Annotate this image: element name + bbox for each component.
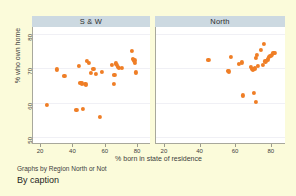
data-point <box>76 63 80 67</box>
data-point <box>259 48 263 52</box>
data-point <box>262 41 266 45</box>
x-tick-label-60: 60 <box>232 148 239 154</box>
graphs-by-note: Graphs by Region North or Not <box>17 165 107 172</box>
plot-area-north <box>155 27 285 144</box>
x-axis-title: % born in state of residence <box>32 155 285 162</box>
data-point <box>112 82 116 86</box>
gridline-y-60 <box>155 103 285 104</box>
x-axis-line-left <box>32 143 150 144</box>
data-point <box>134 70 138 74</box>
data-point <box>81 106 85 110</box>
data-point <box>93 72 97 76</box>
panel-header-s-and-w: S & W <box>32 16 150 27</box>
data-point <box>227 69 231 73</box>
x-tick-label-40: 40 <box>69 148 76 154</box>
x-tick-label-40: 40 <box>196 148 203 154</box>
x-tick-label-80: 80 <box>134 148 141 154</box>
data-point <box>62 74 66 78</box>
data-point <box>206 58 210 62</box>
data-point <box>84 83 88 87</box>
gridline-y-80 <box>32 34 150 35</box>
data-point <box>89 71 93 75</box>
x-tick-label-20: 20 <box>161 148 168 154</box>
data-point <box>240 60 244 64</box>
gridline-y-60 <box>32 103 150 104</box>
x-tick-label-60: 60 <box>101 148 108 154</box>
x-axis-line-right <box>155 143 285 144</box>
data-point <box>130 49 134 53</box>
y-axis-ticks: 50607080 <box>14 16 32 144</box>
gridline-y-50 <box>155 137 285 138</box>
data-point <box>261 63 265 67</box>
data-point <box>55 67 59 71</box>
data-point <box>273 51 277 55</box>
x-tick-mark-80 <box>271 144 272 147</box>
data-point <box>254 56 258 60</box>
plot-area-s-and-w <box>32 27 150 144</box>
y-axis-line-left <box>32 27 33 144</box>
data-point <box>252 91 256 95</box>
data-point <box>241 93 245 97</box>
x-tick-label-20: 20 <box>37 148 44 154</box>
data-point <box>97 115 101 119</box>
x-tick-mark-20 <box>164 144 165 147</box>
data-point <box>44 103 48 107</box>
data-point <box>112 73 116 77</box>
x-tick-mark-60 <box>235 144 236 147</box>
y-axis-line-right <box>155 27 156 144</box>
figure-caption: By caption <box>17 175 59 185</box>
data-point <box>255 52 259 56</box>
x-tick-mark-20 <box>40 144 41 147</box>
x-tick-mark-40 <box>200 144 201 147</box>
gridline-y-50 <box>32 137 150 138</box>
gridline-y-80 <box>155 34 285 35</box>
panel-header-north: North <box>155 16 285 27</box>
data-point <box>229 55 233 59</box>
scatter-chart-figure: % who own home 50607080 S & W North 2040… <box>0 0 296 196</box>
data-point <box>133 61 137 65</box>
x-tick-mark-60 <box>105 144 106 147</box>
x-tick-mark-80 <box>137 144 138 147</box>
panel-north: North <box>155 16 285 144</box>
panel-s-and-w: S & W <box>32 16 150 144</box>
x-tick-label-80: 80 <box>267 148 274 154</box>
data-point <box>91 67 95 71</box>
data-point <box>74 108 78 112</box>
x-tick-mark-40 <box>72 144 73 147</box>
data-point <box>99 70 103 74</box>
gridline-y-70 <box>155 68 285 69</box>
data-point <box>87 61 91 65</box>
